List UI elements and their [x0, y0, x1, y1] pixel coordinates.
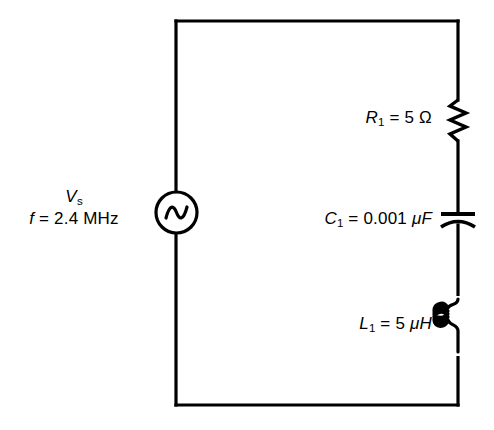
frequency-value-text: = 2.4 MHz [34, 209, 119, 228]
resistor-label: R1 = 5 Ω [252, 107, 432, 129]
resistor-designator: R [366, 108, 378, 127]
ac-source-icon [156, 192, 197, 233]
circuit-diagram: Vs f = 2.4 MHz R1 = 5 Ω C1 = 0.001 μF L1… [0, 0, 494, 430]
inductor-designator: L [359, 314, 369, 333]
source-label-line1: Vs [0, 186, 148, 208]
resistor-zigzag-icon [450, 100, 466, 141]
capacitor-unit-text: μF [412, 209, 432, 228]
resistor-unit-text: Ω [419, 108, 432, 127]
source-symbol-subscript: s [77, 195, 83, 207]
capacitor-designator: C [325, 209, 337, 228]
inductor-unit-text: μH [410, 314, 432, 333]
capacitor-label: C1 = 0.001 μF [232, 208, 432, 230]
inductor-coil-loops [434, 296, 464, 356]
source-label-line2: f = 2.4 MHz [0, 208, 148, 230]
capacitor-value-text: = 0.001 [343, 209, 411, 228]
inductor-value-text: = 5 [375, 314, 410, 333]
source-symbol-V: V [65, 187, 77, 206]
resistor-value-text: = 5 [385, 108, 420, 127]
source-label: Vs f = 2.4 MHz [0, 186, 148, 230]
inductor-label: L1 = 5 μH [252, 313, 432, 335]
